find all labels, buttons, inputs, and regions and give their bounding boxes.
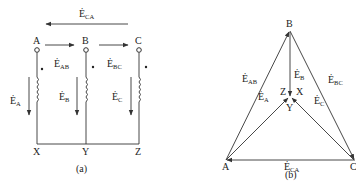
- vertex-a-label: A: [222, 161, 230, 172]
- emf-ab-label-b: ĖAB: [242, 73, 258, 85]
- terminal-b-label: B: [82, 35, 89, 46]
- terminal-b-circle: [84, 48, 89, 53]
- three-phase-diagram: ĖCA A B C ĖAB ĖBC: [0, 0, 356, 181]
- figure-a-winding-diagram: ĖCA A B C ĖAB ĖBC: [10, 8, 147, 175]
- polarity-dot-b: [92, 66, 94, 68]
- center-x-label: X: [296, 86, 304, 97]
- vertex-b-label: B: [286, 18, 293, 29]
- terminal-a-label: A: [33, 35, 41, 46]
- emf-ca-arrow: ĖCA: [46, 8, 128, 24]
- terminal-x-label: X: [33, 146, 41, 157]
- winding-b: [86, 53, 88, 145]
- emf-b-label: ĖB: [59, 91, 70, 103]
- terminal-c-label: C: [135, 35, 142, 46]
- emf-c-label: ĖC: [112, 91, 122, 103]
- vertex-c-label: C: [350, 161, 356, 172]
- emf-bc-label: ĖBC: [107, 58, 122, 70]
- svg-text:ĖCA: ĖCA: [79, 8, 94, 20]
- center-y-label: Y: [286, 102, 293, 113]
- emf-b-label-b: ĖB: [294, 69, 305, 81]
- center-z-label: Z: [280, 86, 286, 97]
- winding-c: [139, 53, 141, 145]
- emf-a-label: ĖA: [10, 95, 21, 107]
- emf-bc-label-b: ĖBC: [328, 74, 343, 86]
- caption-b: (b): [285, 169, 297, 181]
- winding-a: [37, 53, 39, 145]
- terminal-z-label: Z: [135, 146, 141, 157]
- emf-ab-label: ĖAB: [54, 58, 70, 70]
- emf-a-label-b: ĖA: [258, 91, 269, 103]
- terminal-a-circle: [35, 48, 40, 53]
- emf-a-phasor: [226, 98, 288, 160]
- caption-a: (a): [76, 163, 87, 175]
- emf-c-phasor: [292, 98, 354, 160]
- terminal-y-label: Y: [82, 146, 89, 157]
- polarity-dot-a: [41, 68, 43, 70]
- terminal-c-circle: [137, 48, 142, 53]
- figure-b-phasor-diagram: B A C ĖAB ĖBC ĖCA ĖA ĖB ĖC Z X Y (b): [222, 18, 356, 181]
- polarity-dot-c: [145, 66, 147, 68]
